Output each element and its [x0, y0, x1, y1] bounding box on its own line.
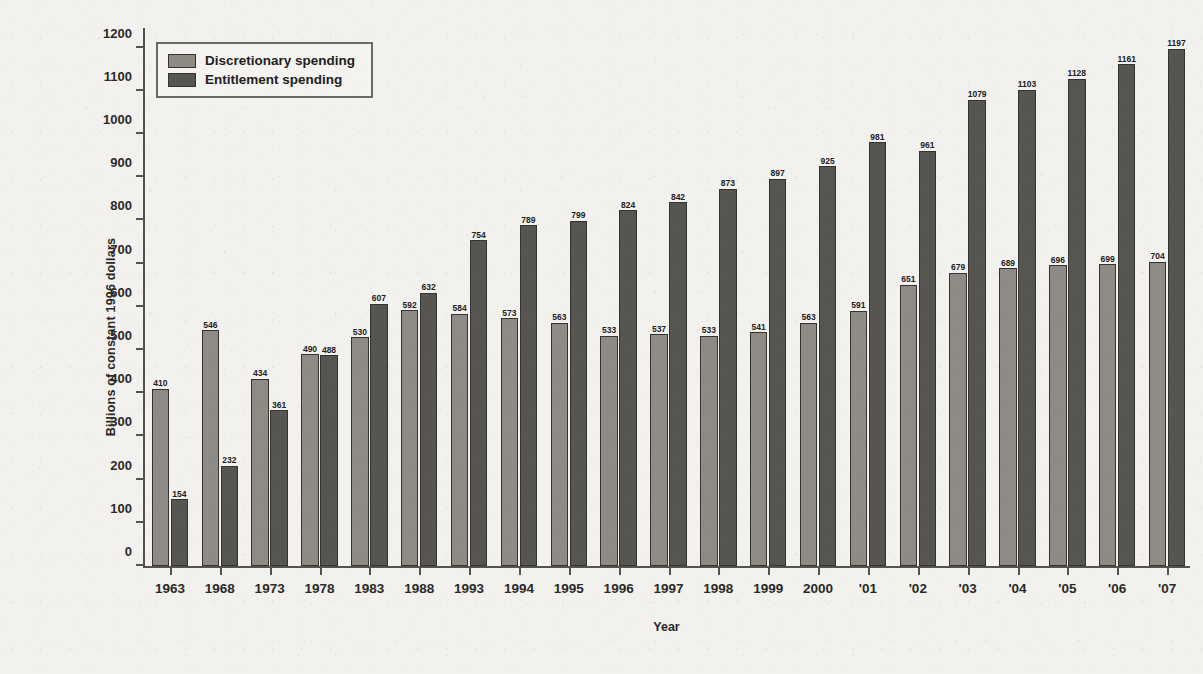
bar-value-label: 607: [372, 294, 386, 303]
y-axis-tick-label: 1000: [103, 112, 132, 127]
x-axis-tick-label: 1997: [653, 581, 683, 596]
x-axis-tick: [569, 566, 571, 575]
bar-value-label: 592: [403, 301, 417, 310]
y-axis-tick: [136, 348, 145, 350]
x-axis-tick: [619, 566, 621, 575]
y-axis-tick-label: 500: [110, 328, 132, 343]
bar: 799: [570, 221, 588, 566]
x-axis-tick-label: 1999: [753, 581, 783, 596]
bar-value-label: 537: [652, 325, 666, 334]
bar-value-label: 925: [820, 157, 834, 166]
x-axis-tick: [320, 566, 322, 575]
x-axis-tick-label: 1995: [554, 581, 584, 596]
x-axis-tick-label: 1983: [354, 581, 384, 596]
y-axis-tick-label: 200: [110, 457, 132, 472]
bar-value-label: 533: [602, 326, 616, 335]
bar: 679: [949, 273, 967, 566]
x-axis-tick: [1067, 566, 1069, 575]
bar: 592: [401, 310, 419, 566]
bar-value-label: 842: [671, 193, 685, 202]
y-axis-tick: [136, 218, 145, 220]
x-axis-title: Year: [143, 620, 1190, 634]
bar: 563: [551, 323, 569, 566]
x-axis-tick-label: 2000: [803, 581, 833, 596]
y-axis-tick-label: 900: [110, 155, 132, 170]
legend-swatch-entitlement: [168, 73, 196, 87]
bar-value-label: 704: [1150, 252, 1164, 261]
x-axis-tick-label: 1968: [205, 581, 235, 596]
bar: 490: [301, 354, 319, 566]
x-axis-tick-label: 1994: [504, 581, 534, 596]
x-axis-tick: [519, 566, 521, 575]
y-axis-tick-label: 400: [110, 371, 132, 386]
bar-value-label: 584: [452, 304, 466, 313]
x-axis-tick: [170, 566, 172, 575]
bar-value-label: 696: [1051, 256, 1065, 265]
bar-value-label: 488: [322, 346, 336, 355]
bar-value-label: 232: [222, 456, 236, 465]
bar: 897: [769, 179, 787, 567]
plot-frame: 0100200300400500600700800900100011001200…: [143, 28, 1190, 568]
bar-value-label: 689: [1001, 259, 1015, 268]
bar-value-label: 679: [951, 263, 965, 272]
x-axis-tick: [369, 566, 371, 575]
x-axis-tick-label: '03: [959, 581, 977, 596]
x-axis-tick: [669, 566, 671, 575]
bar: 533: [600, 336, 618, 566]
bar-value-label: 651: [901, 275, 915, 284]
bar-value-label: 699: [1101, 255, 1115, 264]
bar-value-label: 546: [203, 321, 217, 330]
bar: 530: [351, 337, 369, 566]
y-axis-tick: [136, 564, 145, 566]
bar: 537: [650, 334, 668, 566]
y-axis-tick-label: 800: [110, 198, 132, 213]
bar: 154: [171, 499, 189, 566]
bar-value-label: 1103: [1018, 80, 1036, 89]
bar: 704: [1149, 262, 1167, 566]
x-axis-tick-label: 1963: [155, 581, 185, 596]
y-axis-tick-label: 1200: [103, 25, 132, 40]
plot-area: 0100200300400500600700800900100011001200…: [145, 28, 1190, 566]
bar-value-label: 1161: [1117, 55, 1135, 64]
legend-label-entitlement: Entitlement spending: [205, 72, 342, 87]
x-axis-tick: [768, 566, 770, 575]
bar-value-label: 754: [471, 231, 485, 240]
bar: 541: [750, 332, 768, 566]
y-axis-tick-label: 100: [110, 500, 132, 515]
y-axis-tick: [136, 478, 145, 480]
bar: 981: [869, 142, 887, 566]
bar-value-label: 410: [153, 379, 167, 388]
bar-value-label: 563: [801, 313, 815, 322]
x-axis-tick-label: '01: [859, 581, 877, 596]
y-axis-tick-label: 1100: [104, 68, 132, 83]
y-axis-tick: [136, 175, 145, 177]
x-axis-tick-label: 1988: [404, 581, 434, 596]
legend-item-entitlement: Entitlement spending: [168, 70, 355, 89]
bar-value-label: 632: [422, 283, 436, 292]
bar: 689: [999, 268, 1017, 566]
bar-value-label: 361: [272, 401, 286, 410]
bar-value-label: 897: [771, 169, 785, 178]
x-axis-tick: [270, 566, 272, 575]
bar-value-label: 799: [571, 211, 585, 220]
bar: 632: [420, 293, 438, 566]
bar-value-label: 981: [870, 133, 884, 142]
x-axis-tick-label: 1978: [304, 581, 334, 596]
bar-value-label: 434: [253, 369, 267, 378]
bar-value-label: 533: [702, 326, 716, 335]
bar-value-label: 154: [172, 490, 186, 499]
bar: 584: [451, 314, 469, 566]
y-axis-tick: [136, 132, 145, 134]
bar: 591: [850, 311, 868, 566]
x-axis-tick-label: '06: [1108, 581, 1126, 596]
x-axis-tick: [1167, 566, 1169, 575]
bar-value-label: 563: [552, 313, 566, 322]
bar: 789: [520, 225, 538, 566]
bar: 873: [719, 189, 737, 566]
bar: 546: [202, 330, 220, 566]
bar: 925: [819, 166, 837, 566]
x-axis-tick: [469, 566, 471, 575]
bar: 410: [152, 389, 170, 566]
x-axis-tick: [419, 566, 421, 575]
legend-label-discretionary: Discretionary spending: [205, 53, 355, 68]
